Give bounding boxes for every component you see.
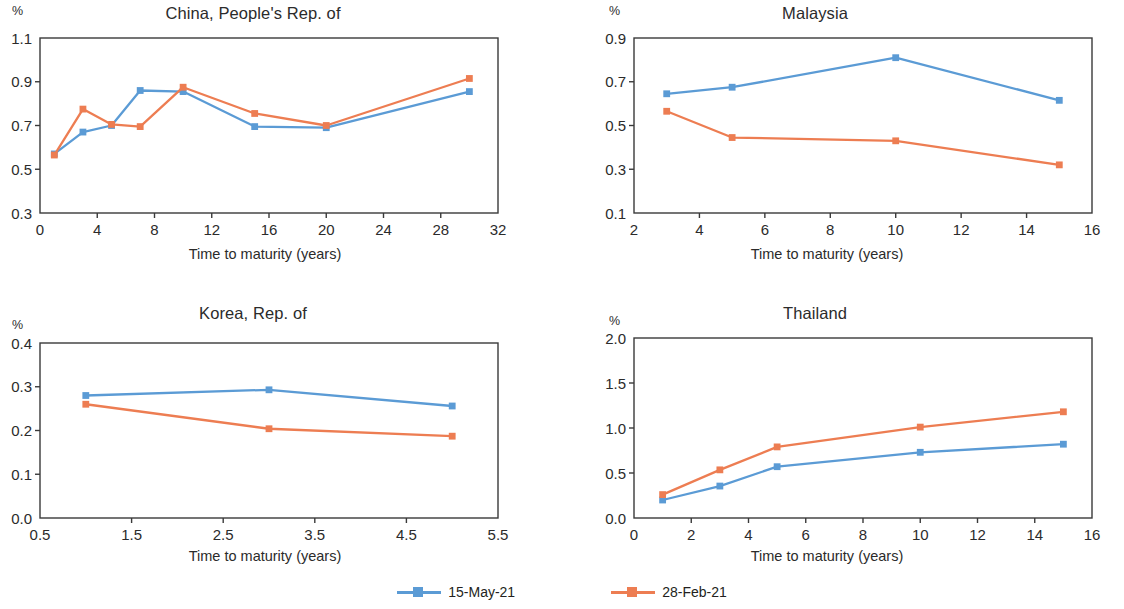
svg-text:8: 8 — [826, 221, 834, 238]
data-point-marker — [180, 84, 187, 91]
svg-text:24: 24 — [375, 221, 392, 238]
svg-text:0.5: 0.5 — [605, 117, 626, 134]
data-point-marker — [917, 424, 924, 431]
x-axis-title-malaysia: Time to maturity (years) — [546, 246, 1108, 262]
svg-text:0.5: 0.5 — [30, 526, 51, 543]
data-point-marker — [466, 75, 473, 82]
legend-label-series-1: 15-May-21 — [448, 584, 515, 600]
data-point-marker — [51, 152, 58, 159]
svg-text:12: 12 — [953, 221, 970, 238]
data-point-marker — [1060, 441, 1067, 448]
data-point-marker — [323, 122, 330, 129]
data-point-marker — [1056, 97, 1063, 104]
series-line-1 — [667, 58, 1060, 101]
data-point-marker — [774, 444, 781, 451]
svg-text:4.5: 4.5 — [396, 526, 417, 543]
data-point-marker — [1060, 408, 1067, 415]
svg-text:0.3: 0.3 — [11, 205, 32, 222]
series-line-2 — [663, 412, 1064, 495]
svg-text:1.5: 1.5 — [605, 375, 626, 392]
svg-text:5.5: 5.5 — [488, 526, 509, 543]
svg-text:0.1: 0.1 — [605, 205, 626, 222]
svg-text:12: 12 — [203, 221, 220, 238]
data-point-marker — [892, 137, 899, 144]
legend-item-series-1[interactable]: 15-May-21 — [397, 584, 515, 600]
legend-marker-series-1 — [413, 587, 423, 597]
svg-text:1.0: 1.0 — [605, 420, 626, 437]
data-point-marker — [266, 386, 273, 393]
data-point-marker — [449, 433, 456, 440]
data-point-marker — [466, 88, 473, 95]
x-axis-title-china: Time to maturity (years) — [0, 246, 546, 262]
svg-text:20: 20 — [318, 221, 335, 238]
svg-text:0.3: 0.3 — [11, 378, 32, 395]
data-point-marker — [892, 54, 899, 61]
legend-swatch-series-1 — [397, 586, 441, 598]
series-line-2 — [667, 111, 1060, 165]
data-point-marker — [137, 123, 144, 130]
svg-text:0.0: 0.0 — [605, 510, 626, 527]
svg-text:0.0: 0.0 — [11, 510, 32, 527]
svg-text:28: 28 — [432, 221, 449, 238]
svg-text:1.5: 1.5 — [121, 526, 142, 543]
data-point-marker — [729, 134, 736, 141]
data-point-marker — [82, 392, 89, 399]
data-point-marker — [82, 401, 89, 408]
data-point-marker — [266, 425, 273, 432]
svg-text:3.5: 3.5 — [304, 526, 325, 543]
data-point-marker — [663, 90, 670, 97]
svg-text:0.2: 0.2 — [11, 422, 32, 439]
data-point-marker — [80, 129, 87, 136]
data-point-marker — [716, 483, 723, 490]
svg-text:10: 10 — [912, 526, 929, 543]
svg-text:0: 0 — [36, 221, 44, 238]
data-point-marker — [449, 403, 456, 410]
chart-panel-malaysia: % Malaysia 0.10.30.50.70.9246810121416 T… — [562, 0, 1124, 290]
data-point-marker — [80, 106, 87, 113]
legend-item-series-2[interactable]: 28-Feb-21 — [611, 584, 727, 600]
data-point-marker — [108, 121, 115, 128]
legend-marker-series-2 — [627, 587, 637, 597]
svg-text:16: 16 — [1084, 526, 1101, 543]
data-point-marker — [137, 87, 144, 94]
chart-panel-china: % China, People's Rep. of 0.30.50.70.91.… — [0, 0, 562, 290]
svg-text:8: 8 — [150, 221, 158, 238]
svg-text:4: 4 — [93, 221, 101, 238]
svg-text:0.1: 0.1 — [11, 466, 32, 483]
svg-text:6: 6 — [761, 221, 769, 238]
plot-svg-korea: 0.00.10.20.30.40.51.52.53.54.55.5 — [0, 300, 562, 590]
svg-text:0.4: 0.4 — [11, 335, 32, 352]
svg-text:14: 14 — [1018, 221, 1035, 238]
svg-text:0.5: 0.5 — [605, 465, 626, 482]
svg-text:0.9: 0.9 — [11, 73, 32, 90]
svg-text:0.7: 0.7 — [605, 73, 626, 90]
svg-text:16: 16 — [1084, 221, 1101, 238]
svg-text:4: 4 — [744, 526, 752, 543]
svg-text:1.1: 1.1 — [11, 30, 32, 47]
svg-text:2: 2 — [630, 221, 638, 238]
data-point-marker — [774, 463, 781, 470]
svg-text:16: 16 — [261, 221, 278, 238]
legend-swatch-series-2 — [611, 586, 655, 598]
data-point-marker — [659, 491, 666, 498]
svg-text:4: 4 — [695, 221, 703, 238]
x-axis-title-thailand: Time to maturity (years) — [546, 548, 1108, 564]
svg-text:12: 12 — [969, 526, 986, 543]
yield-curve-figure: % China, People's Rep. of 0.30.50.70.91.… — [0, 0, 1124, 609]
svg-text:2.0: 2.0 — [605, 330, 626, 347]
svg-text:2: 2 — [687, 526, 695, 543]
data-point-marker — [1056, 161, 1063, 168]
svg-text:0.3: 0.3 — [605, 161, 626, 178]
legend-label-series-2: 28-Feb-21 — [662, 584, 727, 600]
series-line-2 — [54, 78, 469, 155]
svg-text:2.5: 2.5 — [213, 526, 234, 543]
svg-text:10: 10 — [887, 221, 904, 238]
svg-text:0: 0 — [630, 526, 638, 543]
svg-text:6: 6 — [802, 526, 810, 543]
data-point-marker — [251, 123, 258, 130]
chart-panel-korea: % Korea, Rep. of 0.00.10.20.30.40.51.52.… — [0, 300, 562, 590]
svg-text:14: 14 — [1026, 526, 1043, 543]
chart-panel-thailand: % Thailand 0.00.51.01.52.00246810121416 … — [562, 300, 1124, 590]
svg-text:8: 8 — [859, 526, 867, 543]
svg-text:0.9: 0.9 — [605, 30, 626, 47]
